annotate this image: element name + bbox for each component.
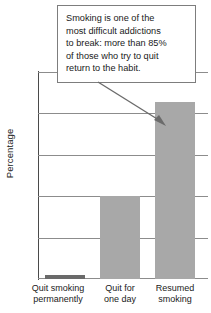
plot-area [38, 72, 208, 279]
bar-chart: Percentage 100 80 60 40 20 0 Quit smokin… [0, 0, 211, 313]
annotation-text: Smoking is one of the most difficult add… [66, 12, 192, 75]
category-label-resumed-smoking: Resumed smoking [138, 283, 211, 304]
y-axis-title: Percentage [4, 118, 15, 190]
annotation-callout-box: Smoking is one of the most difficult add… [57, 5, 196, 83]
bar-quit-for-one-day[interactable] [100, 196, 140, 279]
bar-quit-smoking-permanently[interactable] [45, 275, 85, 279]
bar-resumed-smoking[interactable] [155, 102, 195, 279]
